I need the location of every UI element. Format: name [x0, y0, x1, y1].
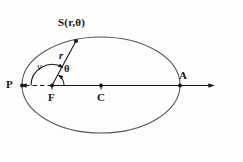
label-point-p: P	[6, 79, 13, 90]
label-point-a: A	[179, 70, 187, 81]
point-marker-c	[99, 84, 103, 88]
point-marker-f	[50, 84, 54, 88]
label-radius-r: r	[59, 51, 63, 62]
diagram-canvas	[0, 0, 243, 162]
angle-theta-arc	[59, 75, 65, 85]
ellipse-geometry-figure: S(r,θ) r ν θ P F C A	[0, 0, 243, 162]
label-angle-theta: θ	[64, 64, 69, 75]
point-marker-s	[74, 39, 78, 43]
label-angle-nu: ν	[37, 62, 42, 73]
point-marker-a	[178, 84, 182, 88]
label-point-c: C	[97, 92, 105, 103]
point-marker-p	[20, 84, 24, 88]
label-point-f: F	[48, 92, 55, 103]
label-point-s: S(r,θ)	[58, 17, 85, 28]
